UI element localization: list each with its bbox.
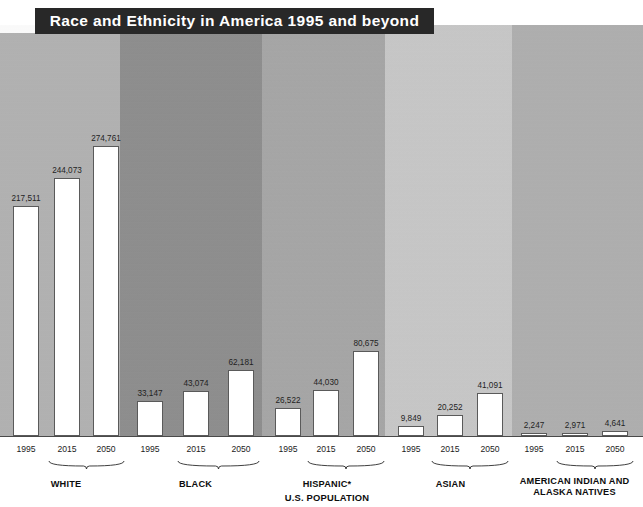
bar-black-1995	[137, 401, 163, 436]
x-axis-tick-label: 2015	[47, 444, 87, 454]
bar-value-label: 26,522	[262, 396, 314, 405]
x-axis-tick-label: 2015	[176, 444, 216, 454]
x-axis-tick-label: 1995	[268, 444, 308, 454]
bar-hispanic-1995	[275, 408, 301, 436]
group-category-label: ASIAN	[381, 479, 521, 489]
x-axis-tick-label: 1995	[391, 444, 431, 454]
bar-value-label: 4,641	[589, 419, 641, 428]
bar-white-2015	[54, 178, 80, 436]
chart-subtitle: U.S. POPULATION	[247, 492, 407, 503]
bar-value-label: 217,511	[0, 194, 52, 203]
bar-value-label: 9,849	[385, 414, 437, 423]
projected-brace	[431, 455, 509, 464]
bar-black-2050	[228, 370, 254, 436]
chart-figure: Race and Ethnicity in America 1995 and b…	[0, 0, 643, 507]
page-title: Race and Ethnicity in America 1995 and b…	[50, 12, 420, 30]
x-axis-tick-label: 2050	[470, 444, 510, 454]
group-category-label: AMERICAN INDIAN AND ALASKA NATIVES	[505, 476, 643, 498]
x-axis-tick-label: 2015	[306, 444, 346, 454]
group-category-label: WHITE	[0, 479, 136, 489]
bar-asian-1995	[398, 426, 424, 436]
group-category-label: HISPANIC*	[257, 479, 397, 489]
bar-value-label: 274,761	[80, 134, 132, 143]
bar-value-label: 43,074	[170, 379, 222, 388]
bar-value-label: 33,147	[124, 389, 176, 398]
x-axis-tick-label: 1995	[514, 444, 554, 454]
bar-hispanic-2050	[353, 351, 379, 436]
bar-value-label: 80,675	[340, 339, 392, 348]
bar-asian-2050	[477, 393, 503, 436]
bar-value-label: 41,091	[464, 381, 516, 390]
bar-value-label: 44,030	[300, 378, 352, 387]
projected-brace	[556, 455, 634, 464]
x-axis-tick-label: 2015	[555, 444, 595, 454]
x-axis-tick-label: 1995	[130, 444, 170, 454]
projected-brace	[177, 455, 260, 464]
x-axis-tick-label: 2050	[595, 444, 635, 454]
group-category-label: BLACK	[126, 479, 266, 489]
bar-value-label: 62,181	[215, 358, 267, 367]
chart-title-bar: Race and Ethnicity in America 1995 and b…	[35, 8, 434, 34]
bar-value-label: 20,252	[424, 403, 476, 412]
bar-white-1995	[13, 206, 39, 436]
bar-hispanic-2015	[313, 390, 339, 436]
bar-black-2015	[183, 391, 209, 436]
x-axis-tick-label: 2050	[221, 444, 261, 454]
projected-brace	[307, 455, 385, 464]
x-axis-tick-label: 1995	[6, 444, 46, 454]
projected-brace	[48, 455, 125, 464]
bar-asian-2015	[437, 415, 463, 436]
x-axis-tick-label: 2015	[430, 444, 470, 454]
bar-value-label: 244,073	[41, 166, 93, 175]
bar-white-2050	[93, 146, 119, 436]
x-axis-tick-label: 2050	[86, 444, 126, 454]
axis-baseline	[0, 436, 643, 437]
x-axis-tick-label: 2050	[346, 444, 386, 454]
